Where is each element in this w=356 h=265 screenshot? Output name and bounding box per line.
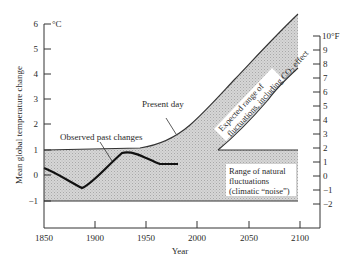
x-axis-label: Year bbox=[172, 246, 189, 256]
svg-text:2050: 2050 bbox=[240, 233, 259, 243]
present-day-annotation: Present day bbox=[142, 99, 184, 109]
svg-text:2: 2 bbox=[323, 143, 328, 153]
svg-text:1: 1 bbox=[323, 157, 328, 167]
svg-text:5: 5 bbox=[323, 101, 328, 111]
right-ticks bbox=[313, 36, 320, 204]
left-tick-labels: 6 5 4 3 2 1 0 −1 bbox=[28, 19, 38, 206]
svg-text:7: 7 bbox=[323, 73, 328, 83]
svg-text:0: 0 bbox=[34, 170, 39, 180]
svg-text:fluctuations: fluctuations bbox=[229, 176, 269, 186]
svg-text:3: 3 bbox=[34, 94, 39, 104]
right-tick-labels: 9 8 7 6 5 4 3 2 1 0 −1 −2 bbox=[323, 45, 333, 209]
svg-text:4: 4 bbox=[323, 115, 328, 125]
svg-text:2: 2 bbox=[34, 119, 39, 129]
svg-text:1850: 1850 bbox=[35, 233, 54, 243]
svg-text:Range of natural: Range of natural bbox=[229, 166, 286, 176]
svg-text:8: 8 bbox=[323, 59, 328, 69]
svg-text:−2: −2 bbox=[323, 199, 333, 209]
svg-text:(climatic “noise”): (climatic “noise”) bbox=[229, 186, 290, 196]
observed-annotation: Observed past changes bbox=[60, 132, 143, 142]
svg-text:6: 6 bbox=[34, 19, 39, 29]
svg-text:−1: −1 bbox=[28, 196, 38, 206]
temperature-chart: 6 5 4 3 2 1 0 −1 °C 10°F 9 8 7 6 5 4 3 2… bbox=[0, 0, 356, 265]
bottom-ticks bbox=[95, 221, 300, 228]
svg-text:2000: 2000 bbox=[188, 233, 207, 243]
svg-text:1950: 1950 bbox=[137, 233, 156, 243]
svg-text:−1: −1 bbox=[323, 185, 333, 195]
svg-text:4: 4 bbox=[34, 69, 39, 79]
y-axis-label: Mean global temperature change bbox=[14, 66, 24, 184]
unit-celsius: °C bbox=[52, 19, 62, 29]
svg-text:1900: 1900 bbox=[86, 233, 105, 243]
svg-text:0: 0 bbox=[323, 171, 328, 181]
svg-text:2100: 2100 bbox=[291, 233, 310, 243]
svg-text:5: 5 bbox=[34, 44, 39, 54]
svg-text:6: 6 bbox=[323, 87, 328, 97]
present-leader bbox=[166, 118, 176, 134]
svg-text:1: 1 bbox=[34, 145, 39, 155]
unit-fahrenheit: 10°F bbox=[322, 31, 340, 41]
bottom-tick-labels: 1850 1900 1950 2000 2050 2100 bbox=[35, 233, 310, 243]
svg-text:9: 9 bbox=[323, 45, 328, 55]
svg-text:3: 3 bbox=[323, 129, 328, 139]
